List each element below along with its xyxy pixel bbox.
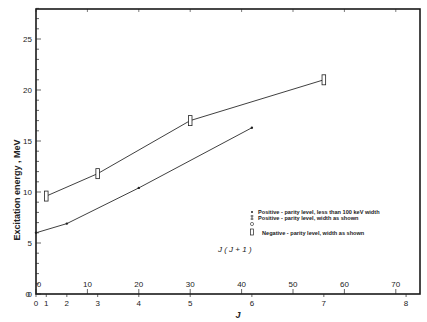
y-axis: 0510152025 [23, 8, 41, 299]
positive-parity-line [36, 128, 252, 233]
jj1-axis-label: J ( J + 1 ) [217, 245, 252, 254]
legend-circle-marker [250, 222, 253, 225]
jj1-tick-label: 60 [340, 280, 349, 289]
j-tick-label: 2 [65, 299, 70, 308]
jj1-tick-label: 40 [237, 280, 246, 289]
negative-parity-line [46, 80, 324, 196]
y-tick-label: 10 [23, 188, 32, 197]
negative-parity-marker [188, 116, 192, 126]
j-tick-label: 6 [250, 299, 255, 308]
jj1-tick-label: 30 [186, 280, 195, 289]
jj1-tick-label: 20 [134, 280, 143, 289]
j-tick-label: 0 [34, 299, 39, 308]
negative-parity-marker [44, 191, 48, 201]
legend-entry-3: Negative - parity level, width as shown [262, 230, 365, 236]
positive-parity-marker [66, 222, 68, 224]
jj1-tick-label: 50 [289, 280, 298, 289]
j-tick-label: 7 [322, 299, 327, 308]
legend-entry-2: Positive - parity level, width as shown [258, 215, 359, 221]
y-axis-title: Excitation energy , MeV [12, 139, 22, 240]
j-tick-label: 4 [137, 299, 142, 308]
j-tick-label: 3 [95, 299, 100, 308]
positive-parity-marker [251, 127, 253, 129]
y-tick-label: 15 [23, 137, 32, 146]
jj1-tick-label: 0 [37, 280, 42, 289]
jj1-tick-label: 70 [391, 280, 400, 289]
negative-parity-marker [96, 169, 100, 179]
positive-parity-marker [138, 187, 140, 189]
y-tick-label: 5 [28, 239, 33, 248]
negative-parity-marker [322, 75, 326, 85]
positive-parity-marker [35, 232, 37, 234]
j-tick-label: 5 [188, 299, 193, 308]
legend-rect-marker [251, 229, 254, 235]
x-axis: 0102030405060700123456780 [26, 9, 409, 308]
j-tick-label: 8 [404, 299, 409, 308]
legend-dot-marker [251, 211, 253, 213]
jj1-tick-label: 10 [83, 280, 92, 289]
j-tick-label: 1 [44, 299, 49, 308]
legend: Positive - parity level, less than 100 k… [217, 209, 380, 254]
x-axis-title: J [235, 310, 241, 320]
origin-label: 0 [26, 290, 31, 299]
y-tick-label: 20 [23, 86, 32, 95]
y-tick-label: 25 [23, 35, 32, 44]
chart: 0510152025 0102030405060700123456780 Pos… [0, 0, 427, 322]
